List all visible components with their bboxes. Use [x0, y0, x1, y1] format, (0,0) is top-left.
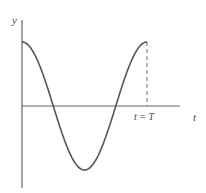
t-axis-label: t	[193, 111, 196, 123]
period-marker-label: t = T	[134, 111, 154, 122]
y-axis-label: y	[12, 14, 17, 26]
chart-plot	[0, 0, 206, 193]
